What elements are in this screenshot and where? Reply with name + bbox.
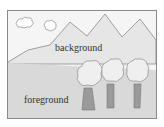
illustration: background foreground: [0, 0, 164, 127]
foreground-label: foreground: [24, 94, 68, 105]
scene-svg: background foreground: [0, 0, 164, 127]
background-label: background: [55, 42, 102, 53]
cloud-icon: [44, 20, 56, 31]
